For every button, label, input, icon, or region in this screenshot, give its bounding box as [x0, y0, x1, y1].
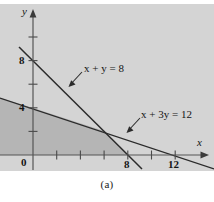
figure-container: y x 0 8 4 8 12 x + y = 8 x + 3y = 12 (a)	[0, 0, 214, 202]
line-2-equation-label: x + 3y = 12	[141, 108, 192, 120]
origin-label: 0	[21, 156, 27, 168]
y-tick-label-4: 4	[19, 101, 25, 113]
x-axis-label: x	[197, 136, 202, 148]
x-tick-label-8: 8	[124, 158, 130, 170]
line-1-equation-label: x + y = 8	[84, 62, 124, 74]
figure-caption: (a)	[0, 178, 214, 190]
plot-svg	[0, 0, 214, 202]
y-axis-label: y	[22, 5, 27, 17]
x-tick-label-12: 12	[168, 158, 179, 170]
y-tick-label-8: 8	[19, 54, 25, 66]
